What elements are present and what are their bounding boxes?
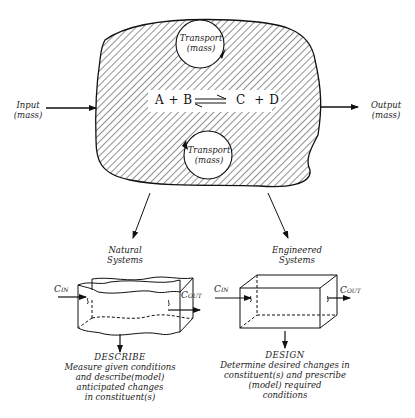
- engineered-design-block: DESIGN Determine desired changes in cons…: [212, 350, 358, 400]
- transport-bottom-label: Transport (mass): [180, 145, 238, 165]
- natural-c-in: CIN: [54, 284, 69, 294]
- transport-bottom-line1: Transport: [180, 145, 238, 155]
- output-label: Output (mass): [364, 100, 408, 120]
- c-in-subscript: IN: [61, 286, 69, 293]
- c-out-subscript: OUT: [347, 287, 361, 294]
- describe-line: in constituent(s): [55, 392, 185, 402]
- engineered-c-in: CIN: [214, 284, 229, 294]
- engineered-c-out: COUT: [340, 285, 361, 295]
- engineered-title-line2: Systems: [262, 255, 332, 265]
- design-line: (model) required: [212, 380, 358, 390]
- design-line: constituent(s) and prescribe: [212, 370, 358, 380]
- describe-line: anticipated changes: [55, 382, 185, 392]
- transport-top-line2: (mass): [172, 43, 230, 53]
- reaction-right: C + D: [234, 93, 281, 107]
- transport-bottom-line2: (mass): [180, 155, 238, 165]
- transport-top-label: Transport (mass): [172, 33, 230, 53]
- natural-title-line1: Natural: [95, 245, 155, 255]
- c-out-symbol: C: [181, 290, 188, 300]
- input-label: Input (mass): [8, 100, 48, 120]
- output-line2: (mass): [364, 110, 408, 120]
- natural-describe-block: DESCRIBE Measure given conditions and de…: [55, 352, 185, 402]
- output-line1: Output: [364, 100, 408, 110]
- natural-system-box: [78, 277, 193, 335]
- natural-systems-title: Natural Systems: [95, 245, 155, 265]
- input-line2: (mass): [8, 110, 48, 120]
- c-out-subscript: OUT: [188, 292, 202, 299]
- input-line1: Input: [8, 100, 48, 110]
- design-line: conditions: [212, 390, 358, 400]
- describe-line: and describe(model): [55, 372, 185, 382]
- natural-title-line2: Systems: [95, 255, 155, 265]
- design-heading: DESIGN: [212, 350, 358, 360]
- c-in-symbol: C: [214, 284, 221, 294]
- engineered-systems-title: Engineered Systems: [262, 245, 332, 265]
- design-line: Determine desired changes in: [212, 360, 358, 370]
- reaction-left: A + B: [153, 93, 195, 107]
- engineered-system-box: [240, 275, 337, 328]
- diagram-canvas: Transport (mass) Transport (mass) A + B …: [0, 0, 415, 418]
- transport-top-line1: Transport: [172, 33, 230, 43]
- describe-heading: DESCRIBE: [55, 352, 185, 362]
- natural-c-out: COUT: [181, 290, 202, 300]
- describe-line: Measure given conditions: [55, 362, 185, 372]
- c-out-symbol: C: [340, 285, 347, 295]
- engineered-title-line1: Engineered: [262, 245, 332, 255]
- c-in-symbol: C: [54, 284, 61, 294]
- c-in-subscript: IN: [221, 286, 229, 293]
